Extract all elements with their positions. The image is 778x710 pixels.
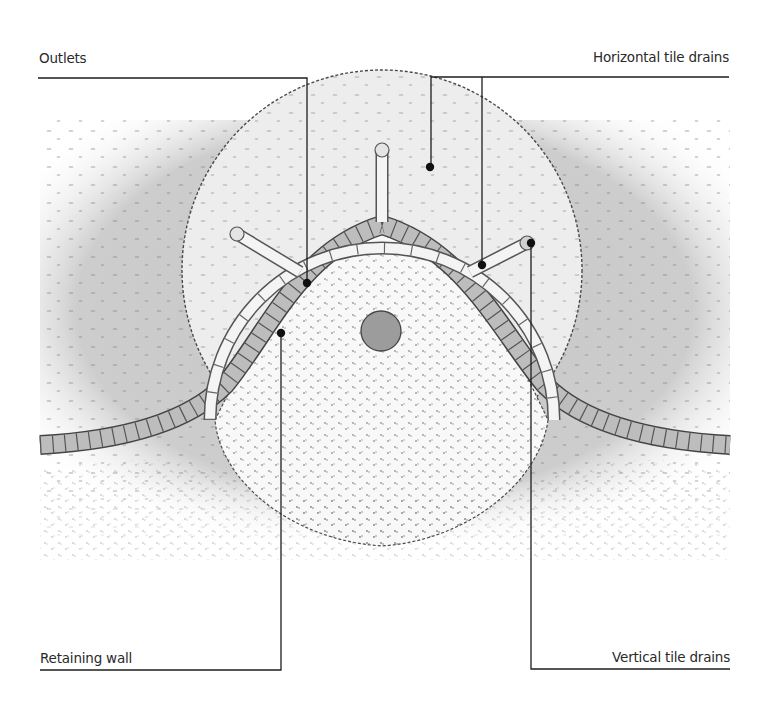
label-horizontal-tile-drains: Horizontal tile drains [593,49,729,65]
label-outlets: Outlets [39,50,86,66]
center-stone [361,311,401,351]
label-vertical-tile-drains: Vertical tile drains [612,649,730,665]
drainage-diagram: Outlets Horizontal tile drains Retaining… [0,0,778,710]
illustration [0,0,778,710]
label-retaining-wall: Retaining wall [40,650,132,666]
